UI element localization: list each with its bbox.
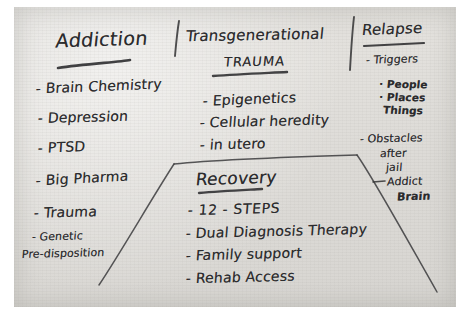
relapse-addict-brain-0: Addict [387,176,423,188]
trauma-item-1: - Cellular heredity [199,112,330,129]
addiction-item-6: Pre-disposition [21,247,104,260]
addiction-item-2: - PTSD [37,139,85,155]
heading-addiction: Addiction [55,29,149,51]
relapse-subitem-1: · Places [378,92,425,103]
heading-relapse: Relapse [361,21,423,38]
subheading-trauma: TRAUMA [223,54,285,68]
heading-recovery: Recovery [195,169,278,189]
addiction-item-5: - Genetic [31,230,83,242]
trauma-item-2: - in utero [199,136,266,152]
handwritten-mindmap-board: Addiction - Brain Chemistry - Depression… [0,0,469,316]
relapse-obstacles-0: - Obstacles [359,132,423,145]
recovery-item-2: - Family support [185,246,302,263]
relapse-item-0: - Triggers [365,53,418,65]
recovery-item-0: - 12 - STEPS [187,201,280,217]
addiction-item-1: - Depression [37,109,129,125]
addiction-item-4: - Trauma [33,204,97,220]
trauma-item-0: - Epigenetics [202,90,296,108]
relapse-addict-brain-1: Brain [397,191,431,203]
relapse-obstacles-2: jail [386,162,403,173]
relapse-subitem-0: · People [378,78,428,90]
heading-transgenerational: Transgenerational [185,27,325,44]
recovery-item-3: - Rehab Access [185,269,295,286]
relapse-subitem-2: Things [382,105,423,116]
relapse-obstacles-1: after [380,148,407,160]
